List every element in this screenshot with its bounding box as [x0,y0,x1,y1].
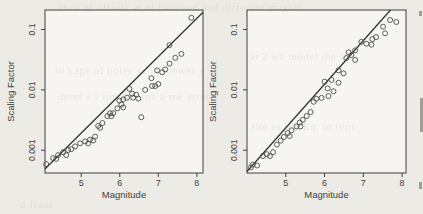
x-axis: 5678Magnitude [283,173,404,200]
plot-frame [247,10,406,173]
y-axis-title: Scaling Factor [207,61,218,122]
x-tick-label: 6 [322,178,327,188]
right-scatter-panel: 5678Magnitude0.0010.010.1Scaling Factor [207,10,406,200]
scanned-figure-page: ance of offsets at of between and differ… [0,0,423,214]
x-axis: 5678Magnitude [79,173,200,200]
x-tick-label: 7 [156,178,161,188]
x-axis-title: Magnitude [102,189,146,200]
left-scatter-panel: 5678Magnitude0.0010.010.1Scaling Factor [5,10,203,200]
scan-artifact [419,11,422,16]
x-axis-title: Magnitude [304,189,348,200]
y-tick-label: 0.001 [27,139,37,161]
y-axis: 0.0010.010.1Scaling Factor [207,23,247,161]
y-tick-label: 0.01 [27,81,37,98]
x-tick-label: 8 [400,178,405,188]
x-tick-label: 6 [117,178,122,188]
y-axis: 0.0010.010.1Scaling Factor [5,23,45,161]
scan-artifact [419,182,422,189]
y-tick-label: 0.01 [229,81,239,98]
x-tick-label: 5 [283,178,288,188]
y-axis-title: Scaling Factor [5,61,16,122]
y-tick-label: 0.1 [229,23,239,35]
x-tick-label: 5 [79,178,84,188]
x-tick-label: 7 [361,178,366,188]
scaling-factor-vs-magnitude-figure: 5678Magnitude0.0010.010.1Scaling Factor5… [0,0,423,214]
y-tick-label: 0.1 [27,23,37,35]
y-tick-label: 0.001 [229,139,239,161]
x-tick-label: 8 [194,178,199,188]
